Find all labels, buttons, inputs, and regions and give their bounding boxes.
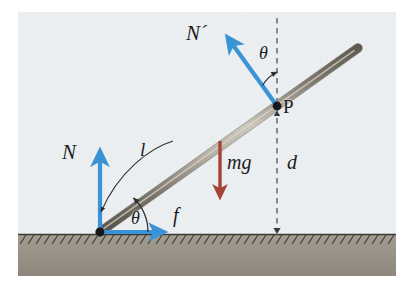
label-theta-top: θ: [259, 44, 268, 62]
physics-figure: N´ θ P N l mg d θ f: [0, 0, 410, 288]
label-normal-ground: N: [62, 142, 76, 163]
label-friction: f: [173, 205, 179, 225]
point-p-marker: [273, 102, 282, 111]
label-normal-wall: N´: [186, 23, 207, 44]
label-length: l: [140, 140, 145, 159]
pivot-point: [96, 228, 105, 237]
label-distance: d: [287, 152, 297, 172]
label-theta-bottom: θ: [131, 209, 140, 227]
label-point-p: P: [283, 97, 294, 116]
label-weight: mg: [227, 152, 251, 172]
hatched-ground: [18, 234, 396, 276]
